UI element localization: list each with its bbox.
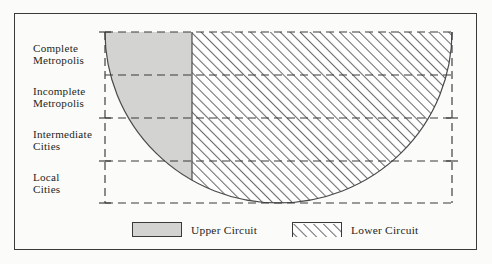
legend-item-upper-circuit: Upper Circuit [132, 222, 257, 237]
tier-label-local-cities: Local Cities [33, 171, 60, 196]
hatch-swatch-icon [293, 224, 341, 237]
lower-circuit-swatch [292, 222, 342, 237]
upper-circuit-swatch [132, 222, 182, 237]
lower-circuit-region [192, 32, 452, 203]
tier-label-complete-metropolis: Complete Metropolis [33, 42, 84, 67]
urban-hierarchy-figure: Complete Metropolis Incomplete Metropoli… [0, 0, 492, 264]
tier-label-incomplete-metropolis: Incomplete Metropolis [33, 85, 85, 110]
upper-circuit-label: Upper Circuit [191, 224, 257, 236]
legend-item-lower-circuit: Lower Circuit [292, 222, 418, 237]
tier-label-intermediate-cities: Intermediate Cities [33, 128, 92, 153]
lower-circuit-label: Lower Circuit [351, 224, 418, 236]
legend: Upper Circuit Lower Circuit [132, 222, 432, 248]
